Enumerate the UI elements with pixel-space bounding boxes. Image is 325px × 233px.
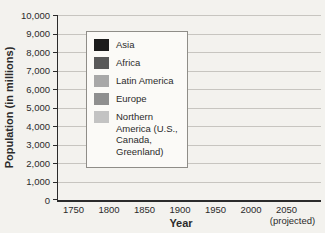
y-axis-tick xyxy=(53,163,57,164)
legend-swatch-icon xyxy=(94,111,109,123)
legend-item-label: Europe xyxy=(116,93,147,105)
y-tick-label: 7,000 xyxy=(8,65,50,76)
x-axis-annotation: (projected) xyxy=(261,215,325,226)
y-axis-tick xyxy=(53,34,57,35)
y-axis-tick xyxy=(53,89,57,90)
y-tick-label: 3,000 xyxy=(8,139,50,150)
legend-item: Latin America xyxy=(94,75,182,87)
y-tick-label: 9,000 xyxy=(8,28,50,39)
y-tick-label: 6,000 xyxy=(8,84,50,95)
x-axis-title: Year xyxy=(150,217,212,229)
legend-swatch-icon xyxy=(94,39,109,51)
y-axis-tick xyxy=(53,15,57,16)
y-tick-label: 1,000 xyxy=(8,176,50,187)
y-tick-label: 5,000 xyxy=(8,102,50,113)
x-tick-label: 1900 xyxy=(160,204,200,215)
y-axis-tick xyxy=(53,199,57,200)
x-tick-label: 1800 xyxy=(89,204,129,215)
y-axis-tick xyxy=(53,126,57,127)
legend-swatch-icon xyxy=(94,57,109,69)
legend-item: Northern America (U.S., Canada, Greenlan… xyxy=(94,111,182,157)
legend-box: AsiaAfricaLatin AmericaEuropeNorthern Am… xyxy=(86,31,188,168)
y-tick-label: 4,000 xyxy=(8,121,50,132)
y-tick-label: 8,000 xyxy=(8,47,50,58)
gridline xyxy=(58,15,321,16)
y-tick-label: 10,000 xyxy=(8,10,50,21)
y-axis-tick xyxy=(53,182,57,183)
legend-swatch-icon xyxy=(94,93,109,105)
y-axis-tick xyxy=(53,108,57,109)
legend-item: Africa xyxy=(94,57,182,69)
y-tick-label: 2,000 xyxy=(8,158,50,169)
legend-item-label: Latin America xyxy=(116,75,174,87)
x-tick-label: 1750 xyxy=(54,204,94,215)
population-stacked-bar-chart: Population (in millions) Year AsiaAfrica… xyxy=(0,0,325,233)
x-tick-label: 1950 xyxy=(196,204,236,215)
x-tick-label: 1850 xyxy=(125,204,165,215)
y-axis-tick xyxy=(53,145,57,146)
legend-item-label: Africa xyxy=(116,57,140,69)
legend-item: Asia xyxy=(94,39,182,51)
y-tick-label: 0 xyxy=(8,195,50,206)
x-tick-label: 2050 xyxy=(267,204,307,215)
legend-item: Europe xyxy=(94,93,182,105)
legend-item-label: Northern America (U.S., Canada, Greenlan… xyxy=(116,111,182,157)
y-axis-tick xyxy=(53,52,57,53)
x-tick-label: 2000 xyxy=(231,204,271,215)
gridline xyxy=(58,182,321,183)
y-axis-tick xyxy=(53,71,57,72)
legend-item-label: Asia xyxy=(116,39,134,51)
legend-swatch-icon xyxy=(94,75,109,87)
